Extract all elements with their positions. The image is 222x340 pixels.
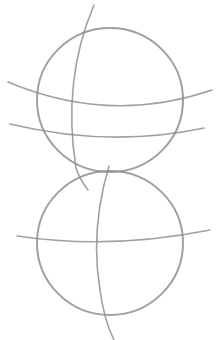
pencil-sketch [0,0,222,340]
bottom-circle [37,171,183,315]
sketch-canvas [0,0,222,340]
top-circle [37,28,183,172]
bottom-horizontal-guide [17,230,210,242]
